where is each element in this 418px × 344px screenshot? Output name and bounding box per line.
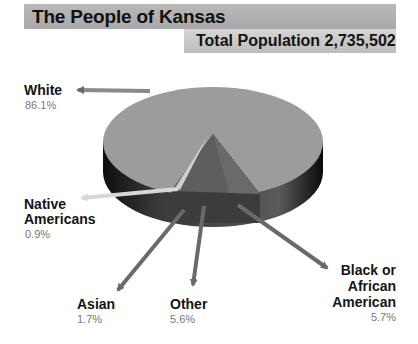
arrow-white [78,90,150,91]
label-native-line1: Native [24,196,66,212]
pct-asian: 1.7% [77,313,102,326]
label-native-line2: Americans [24,211,96,227]
label-asian: Asian [77,296,115,312]
label-white: White [24,82,62,98]
arrow-asian [118,210,184,290]
pct-white: 86.1% [25,99,56,112]
label-black-line1: Black or [300,262,396,278]
label-black-line2: African [300,278,396,294]
pct-black: 5.7% [330,311,396,324]
pct-native-americans: 0.9% [25,228,50,241]
pct-other: 5.6% [170,313,195,326]
label-other: Other [170,296,207,312]
label-black-line3: American [300,294,396,310]
